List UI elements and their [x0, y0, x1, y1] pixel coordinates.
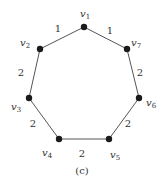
node-label-subscript: 1 [86, 13, 90, 21]
node-label-subscript: 6 [152, 102, 157, 110]
node-label-v2: v2 [20, 37, 30, 50]
node-label-v3: v3 [11, 101, 21, 114]
edge-weight-label: 1 [107, 25, 113, 36]
node-label-subscript: 7 [137, 42, 141, 50]
edge-v2-v3 [29, 49, 40, 98]
node-label-subscript: 2 [26, 42, 30, 50]
edge-v1-v2 [40, 27, 84, 49]
node-label-v5: v5 [110, 149, 120, 162]
node-label-subscript: 4 [48, 152, 53, 160]
edge-weight-label: 1 [55, 23, 61, 34]
node-v6 [136, 95, 142, 101]
node-v3 [26, 95, 32, 101]
node-label-v7: v7 [131, 37, 141, 50]
edge-v1-v7 [84, 27, 127, 49]
node-label-subscript: 3 [17, 106, 21, 114]
cycle-graph-diagram: 1122222 v1v2v3v4v5v6v7 (c) [0, 0, 163, 189]
node-label-v6: v6 [146, 97, 157, 110]
node-v2 [37, 46, 43, 52]
edge-weight-label: 2 [18, 67, 24, 78]
edge-weight-label: 2 [137, 67, 143, 78]
node-label-v4: v4 [42, 147, 53, 160]
node-v7 [124, 46, 130, 52]
node-label-subscript: 5 [116, 154, 120, 162]
edge-weight-label: 2 [30, 118, 36, 129]
node-label-v1: v1 [80, 8, 90, 21]
edge-weight-label: 2 [125, 118, 131, 129]
edge-weight-label: 2 [79, 148, 85, 159]
node-v4 [56, 136, 62, 142]
node-v1 [81, 24, 87, 30]
figure-caption: (c) [75, 165, 89, 176]
node-v5 [106, 136, 112, 142]
edges-group [29, 27, 139, 139]
